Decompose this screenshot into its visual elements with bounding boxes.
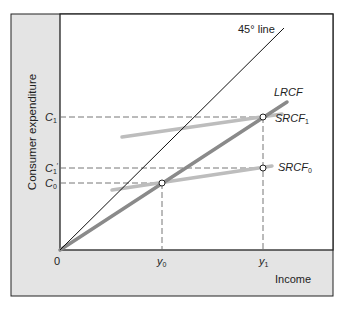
line-45-label: 45° line: [238, 23, 275, 35]
x-axis-label: Income: [275, 273, 311, 285]
point-y0-c0: [159, 180, 165, 186]
point-y1-c1prime: [260, 165, 266, 171]
lrcf-label: LRCF: [274, 86, 304, 98]
consumption-function-diagram: Consumer expenditure C1 C1′ C0 0 y0 y1 I…: [0, 0, 343, 313]
tick-c1-prime: C1′: [45, 162, 59, 175]
origin-label: 0: [54, 255, 60, 267]
srcf0-label: SRCF0: [278, 161, 312, 174]
point-y1-c1: [260, 114, 266, 120]
srcf1-label: SRCF1: [275, 112, 309, 125]
plot-area: [60, 14, 333, 250]
y-axis-label: Consumer expenditure: [26, 74, 38, 190]
